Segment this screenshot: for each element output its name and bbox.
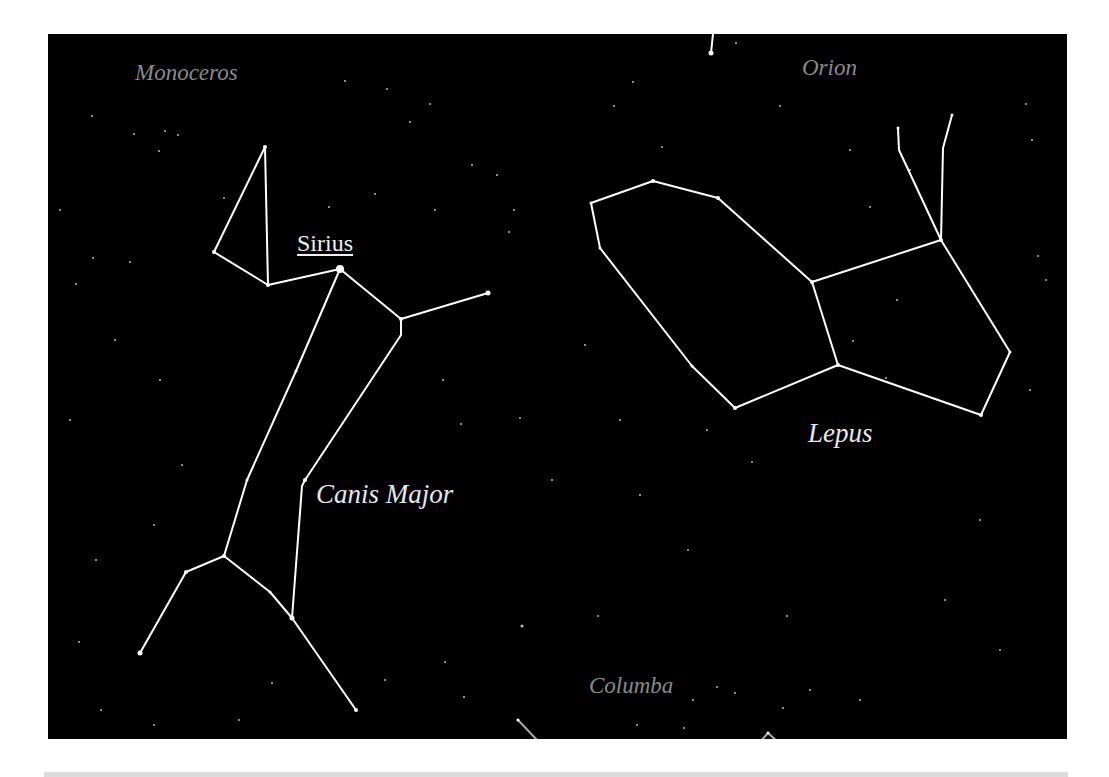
label-sirius: Sirius bbox=[297, 231, 353, 255]
constellation-stars bbox=[138, 51, 1012, 735]
label-monoceros: Monoceros bbox=[135, 61, 238, 84]
label-columba: Columba bbox=[589, 674, 673, 697]
label-lepus: Lepus bbox=[808, 420, 873, 447]
label-orion: Orion bbox=[802, 56, 857, 79]
sirius-star bbox=[336, 265, 344, 273]
label-canis-major: Canis Major bbox=[316, 481, 453, 508]
columba-lines bbox=[518, 720, 778, 739]
constellation-lines bbox=[48, 34, 1067, 739]
star-chart: Monoceros Orion Sirius Canis Major Lepus… bbox=[48, 34, 1067, 739]
caption-bar bbox=[44, 772, 1068, 777]
lepus-lines bbox=[591, 181, 1010, 415]
